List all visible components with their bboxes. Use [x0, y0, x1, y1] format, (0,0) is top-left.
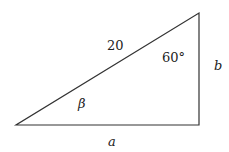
hypotenuse-label: 20	[107, 38, 124, 53]
triangle-shape	[16, 13, 199, 125]
angle-top-label: 60°	[162, 50, 185, 65]
angle-beta-label: β	[77, 96, 86, 111]
triangle-diagram: 20 60° β b a	[0, 0, 229, 152]
side-a-label: a	[108, 134, 116, 149]
side-b-label: b	[214, 58, 222, 73]
